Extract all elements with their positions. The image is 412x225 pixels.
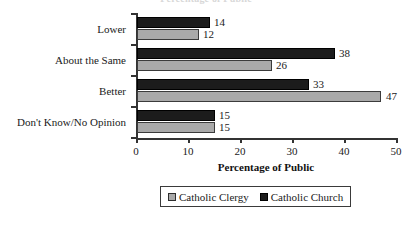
x-axis-tick-label: 40 — [329, 145, 359, 157]
x-axis-tick — [344, 138, 346, 143]
legend-swatch-icon-clergy — [168, 193, 176, 201]
bar-value-clergy-lower: 12 — [203, 29, 214, 40]
bar-value-church-about-the-same: 38 — [339, 48, 350, 59]
category-label-lower: Lower — [97, 23, 126, 35]
bar-clergy-dont-know — [137, 122, 215, 133]
x-axis-title: Percentage of Public — [136, 161, 396, 173]
x-axis-tick — [396, 138, 398, 143]
x-axis-line — [136, 138, 396, 140]
bar-chart-figure: Percentage of Public Lower About the Sam… — [0, 0, 412, 225]
x-axis-tick-label: 0 — [121, 145, 151, 157]
bar-clergy-about-the-same — [137, 60, 272, 71]
x-axis-tick-label: 10 — [173, 145, 203, 157]
category-label-better: Better — [99, 85, 126, 97]
x-axis-tick-label: 20 — [225, 145, 255, 157]
bar-value-clergy-better: 47 — [386, 91, 397, 102]
bar-value-clergy-about-the-same: 26 — [276, 60, 287, 71]
x-axis-tick-label: 50 — [381, 145, 411, 157]
legend-entry-catholic-clergy: Catholic Clergy — [168, 191, 249, 203]
legend-label-catholic-clergy: Catholic Clergy — [179, 191, 249, 203]
bar-church-dont-know — [137, 110, 215, 121]
bar-church-about-the-same — [137, 48, 335, 59]
bar-church-better — [137, 79, 309, 90]
bar-value-church-lower: 14 — [214, 17, 225, 28]
clipped-chart-title: Percentage of Public — [0, 0, 412, 4]
bar-value-church-dont-know: 15 — [219, 110, 230, 121]
chart-legend: Catholic Clergy Catholic Church — [160, 186, 351, 207]
x-axis-tick — [240, 138, 242, 143]
x-axis-tick — [188, 138, 190, 143]
bar-clergy-better — [137, 91, 381, 102]
bar-clergy-lower — [137, 29, 199, 40]
bar-church-lower — [137, 17, 210, 28]
x-axis-tick-label: 30 — [277, 145, 307, 157]
category-axis-labels: Lower About the Same Better Don't Know/N… — [0, 14, 131, 138]
bar-value-church-better: 33 — [313, 79, 324, 90]
x-axis-tick — [136, 138, 138, 143]
category-label-about-the-same: About the Same — [55, 54, 126, 66]
legend-label-catholic-church: Catholic Church — [271, 191, 343, 203]
category-label-dont-know: Don't Know/No Opinion — [17, 116, 126, 128]
x-axis-tick — [292, 138, 294, 143]
legend-swatch-icon-church — [260, 193, 268, 201]
bar-value-clergy-dont-know: 15 — [219, 122, 230, 133]
legend-entry-catholic-church: Catholic Church — [260, 191, 343, 203]
